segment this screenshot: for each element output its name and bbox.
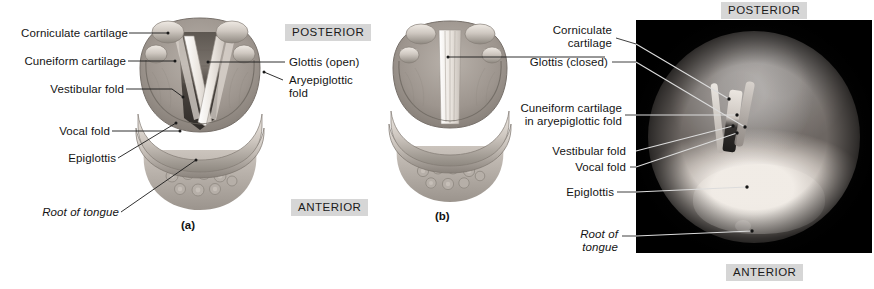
label-vocal-fold-c: Vocal fold xyxy=(500,161,626,174)
label-epiglottis-a: Epiglottis xyxy=(4,152,116,165)
label-vestibular-fold-a: Vestibular fold xyxy=(4,83,124,96)
label-root-of-tongue-c-line1: Root of xyxy=(500,228,618,241)
label-vocal-fold-a: Vocal fold xyxy=(4,125,110,138)
panel-a-caption: (a) xyxy=(181,219,195,231)
label-epiglottis-c: Epiglottis xyxy=(500,186,614,199)
label-corniculate-cartilage-c-line2: cartilage xyxy=(480,37,612,50)
laryngoscopic-photograph xyxy=(636,20,872,253)
label-glottis-open: Glottis (open) xyxy=(289,56,359,69)
label-corniculate-cartilage-a: Corniculate cartilage xyxy=(4,27,128,40)
label-cuneiform-cartilage-c-line2: in aryepiglottic fold xyxy=(470,115,622,128)
orientation-posterior-right: POSTERIOR xyxy=(721,2,807,19)
endoscope-vignette xyxy=(636,20,872,253)
orientation-posterior-left: POSTERIOR xyxy=(285,24,371,41)
label-aryepiglottic-fold-line1: Aryepiglottic xyxy=(289,74,353,87)
label-aryepiglottic-fold-line2: fold xyxy=(289,87,308,100)
label-vestibular-fold-c: Vestibular fold xyxy=(500,145,626,158)
label-corniculate-cartilage-c-line1: Corniculate xyxy=(480,24,612,37)
orientation-anterior-right: ANTERIOR xyxy=(726,264,803,281)
panel-b-caption: (b) xyxy=(435,210,450,222)
label-cuneiform-cartilage-c-line1: Cuneiform cartilage xyxy=(470,102,622,115)
label-cuneiform-cartilage-a: Cuneiform cartilage xyxy=(4,55,126,68)
label-glottis-closed: Glottis (closed) xyxy=(470,56,608,69)
orientation-anterior-left: ANTERIOR xyxy=(291,199,368,216)
figure-glottis: (a) xyxy=(0,0,874,289)
illustration-glottis-open xyxy=(120,10,280,215)
label-root-of-tongue-a: Root of tongue xyxy=(4,206,119,219)
label-root-of-tongue-c-line2: tongue xyxy=(500,241,618,254)
